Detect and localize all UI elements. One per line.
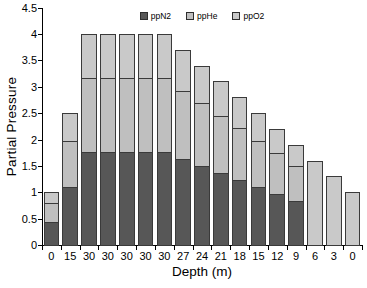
bar-segment-ppN2-5 bbox=[138, 152, 154, 246]
bar-segment-ppO2-8 bbox=[194, 66, 210, 105]
bar-segment-ppN2-4 bbox=[119, 152, 135, 246]
bar-segment-ppO2-13 bbox=[288, 145, 304, 167]
bar-segment-ppHe-12 bbox=[269, 153, 285, 195]
bar-segment-ppHe-0 bbox=[44, 203, 60, 222]
x-tick bbox=[98, 246, 99, 250]
x-tick bbox=[324, 246, 325, 250]
bar-segment-ppN2-8 bbox=[194, 166, 210, 246]
y-tick-label: 0.5 bbox=[0, 214, 37, 225]
y-tick bbox=[38, 34, 42, 35]
bar-segment-ppO2-3 bbox=[100, 34, 116, 79]
bar-segment-ppN2-6 bbox=[157, 152, 173, 246]
x-tick bbox=[343, 246, 344, 250]
bar-segment-ppO2-11 bbox=[251, 113, 267, 142]
x-tick bbox=[80, 246, 81, 250]
bar-segment-ppO2-6 bbox=[157, 34, 173, 79]
y-tick bbox=[38, 166, 42, 167]
y-tick-label: 2.5 bbox=[0, 108, 37, 119]
bar-segment-ppO2-12 bbox=[269, 129, 285, 154]
y-tick-label: 4.5 bbox=[0, 3, 37, 14]
x-tick bbox=[287, 246, 288, 250]
legend-swatch-ppHe bbox=[186, 12, 194, 20]
bar-segment-ppHe-13 bbox=[288, 166, 304, 202]
x-axis-title: Depth (m) bbox=[42, 264, 362, 279]
x-tick bbox=[174, 246, 175, 250]
x-tick bbox=[249, 246, 250, 250]
y-tick-label: 2 bbox=[0, 135, 37, 146]
y-tick-label: 0 bbox=[0, 240, 37, 251]
x-tick bbox=[136, 246, 137, 250]
legend-item-ppO2: ppO2 bbox=[232, 11, 264, 21]
bar-segment-ppHe-6 bbox=[157, 78, 173, 153]
x-tick bbox=[230, 246, 231, 250]
bar-segment-ppO2-1 bbox=[62, 113, 78, 142]
bar-segment-ppHe-2 bbox=[81, 78, 97, 153]
legend-label-ppO2: ppO2 bbox=[243, 11, 264, 21]
y-tick-label: 1.5 bbox=[0, 161, 37, 172]
bar-segment-ppN2-9 bbox=[213, 173, 229, 246]
bar-segment-ppN2-7 bbox=[175, 159, 191, 246]
y-tick bbox=[38, 60, 42, 61]
x-tick bbox=[155, 246, 156, 250]
bar-segment-ppN2-2 bbox=[81, 152, 97, 246]
legend-swatch-ppO2 bbox=[232, 12, 240, 20]
bar-segment-ppO2-2 bbox=[81, 34, 97, 79]
y-tick bbox=[38, 87, 42, 88]
bar-segment-ppO2-4 bbox=[119, 34, 135, 79]
x-tick bbox=[42, 246, 43, 250]
bar-segment-ppO2-16 bbox=[345, 192, 361, 246]
y-tick bbox=[38, 8, 42, 9]
x-tick bbox=[268, 246, 269, 250]
legend-label-ppHe: ppHe bbox=[197, 11, 217, 21]
y-tick bbox=[38, 219, 42, 220]
x-tick bbox=[117, 246, 118, 250]
bar-segment-ppHe-10 bbox=[232, 128, 248, 181]
legend-swatch-ppN2 bbox=[140, 12, 148, 20]
x-tick-label: 0 bbox=[342, 251, 364, 262]
bar-segment-ppN2-3 bbox=[100, 152, 116, 246]
bar-segment-ppHe-4 bbox=[119, 78, 135, 153]
x-tick bbox=[61, 246, 62, 250]
bar-segment-ppO2-9 bbox=[213, 81, 229, 116]
x-tick bbox=[306, 246, 307, 250]
y-tick-label: 1 bbox=[0, 187, 37, 198]
bar-segment-ppHe-9 bbox=[213, 116, 229, 174]
legend-item-ppN2: ppN2 bbox=[140, 11, 171, 21]
bar-segment-ppN2-12 bbox=[269, 194, 285, 246]
y-tick-label: 3 bbox=[0, 82, 37, 93]
x-tick bbox=[362, 246, 363, 250]
chart-legend: ppN2ppHeppO2 bbox=[42, 11, 362, 21]
bar-segment-ppN2-11 bbox=[251, 187, 267, 246]
bar-segment-ppO2-14 bbox=[307, 161, 323, 246]
bar-segment-ppHe-8 bbox=[194, 103, 210, 167]
y-tick bbox=[38, 192, 42, 193]
bar-segment-ppO2-5 bbox=[138, 34, 154, 79]
bar-segment-ppHe-5 bbox=[138, 78, 154, 153]
bar-segment-ppN2-13 bbox=[288, 201, 304, 246]
bar-segment-ppO2-0 bbox=[44, 192, 60, 204]
bar-segment-ppO2-7 bbox=[175, 50, 191, 92]
bar-segment-ppHe-7 bbox=[175, 91, 191, 160]
bar-segment-ppN2-0 bbox=[44, 222, 60, 246]
bar-segment-ppHe-1 bbox=[62, 141, 78, 188]
partial-pressure-chart: Partial Pressure Depth (m) ppN2ppHeppO2 … bbox=[0, 0, 367, 288]
y-tick bbox=[38, 140, 42, 141]
bar-segment-ppO2-10 bbox=[232, 97, 248, 129]
y-tick bbox=[38, 113, 42, 114]
bar-segment-ppHe-11 bbox=[251, 141, 267, 188]
bar-segment-ppN2-10 bbox=[232, 180, 248, 246]
x-tick bbox=[211, 246, 212, 250]
bar-segment-ppN2-1 bbox=[62, 187, 78, 246]
legend-label-ppN2: ppN2 bbox=[151, 11, 171, 21]
bar-segment-ppO2-15 bbox=[326, 176, 342, 246]
y-tick-label: 4 bbox=[0, 29, 37, 40]
y-tick-label: 3.5 bbox=[0, 55, 37, 66]
legend-item-ppHe: ppHe bbox=[186, 11, 217, 21]
bar-segment-ppHe-3 bbox=[100, 78, 116, 153]
x-tick bbox=[193, 246, 194, 250]
